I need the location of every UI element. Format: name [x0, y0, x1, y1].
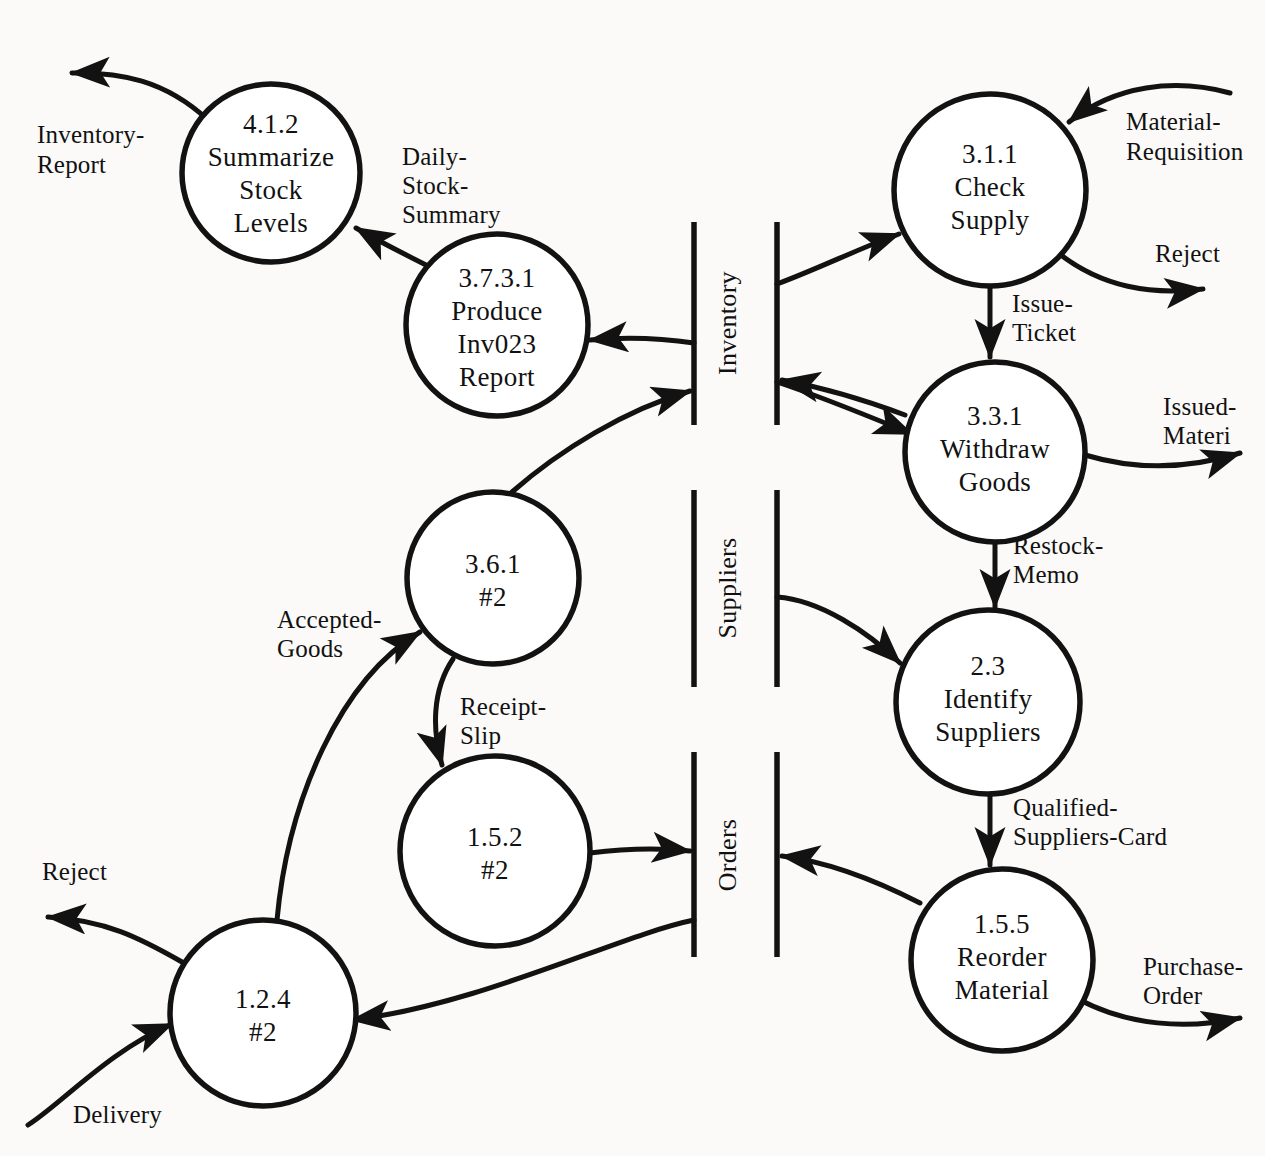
process-label-line: 3.6.1 — [465, 549, 521, 579]
flow-label-line: Daily- — [402, 143, 467, 170]
flow-label-line: Receipt- — [460, 693, 546, 720]
flow-label-line: Requisition — [1126, 138, 1244, 165]
process-label-line: Inv023 — [458, 329, 537, 359]
flow-label-daily-stock-summary: Daily- Stock- Summary — [402, 143, 501, 228]
flow-label-line: Issue- — [1012, 290, 1073, 317]
process-node-1-2-4[interactable]: 1.2.4 #2 — [170, 920, 356, 1106]
flow-label-line: Memo — [1013, 561, 1079, 588]
flow-line-withdraw-to-inventory — [782, 380, 905, 415]
flow-label-line: Material- — [1126, 108, 1221, 135]
process-label-line: Reorder — [957, 942, 1047, 972]
flow-line-issued-material — [1085, 453, 1240, 466]
data-store-label-orders: Orders — [713, 819, 742, 892]
flow-label-line: Issued- — [1163, 393, 1237, 420]
data-stores: Inventory Suppliers Orders — [694, 222, 777, 957]
flow-label-line: Report — [37, 151, 106, 178]
flow-label-line: Materi — [1163, 422, 1231, 449]
flow-line-orders-in-152 — [590, 849, 690, 853]
process-label-line: Withdraw — [940, 434, 1050, 464]
flow-line-reorder-to-orders — [782, 856, 920, 903]
flow-label-line: Qualified- — [1013, 794, 1118, 821]
process-node-3-3-1[interactable]: 3.3.1 Withdraw Goods — [905, 362, 1085, 542]
process-node-2-3[interactable]: 2.3 Identify Suppliers — [896, 610, 1080, 794]
flow-label-line: Purchase- — [1143, 953, 1243, 980]
flow-line-receipt-slip — [436, 659, 453, 765]
flow-label-material-requisition: Material- Requisition — [1126, 108, 1244, 165]
process-label-line: 3.7.3.1 — [458, 263, 535, 293]
process-label-line: Goods — [959, 467, 1032, 497]
flow-label-line: Reject — [1155, 240, 1220, 267]
flow-label-line: Order — [1143, 982, 1203, 1009]
flow-label-line: Accepted- — [277, 606, 382, 633]
process-label-line: 1.2.4 — [235, 984, 291, 1014]
process-label-line: Supply — [951, 205, 1030, 235]
flow-line-inventory-to-check — [777, 234, 899, 284]
process-label-line: Check — [955, 172, 1026, 202]
flow-label-reject-top: Reject — [1155, 240, 1220, 267]
data-store-suppliers[interactable]: Suppliers — [694, 490, 777, 687]
process-label-line: Suppliers — [935, 717, 1041, 747]
process-label-line: #2 — [481, 855, 509, 885]
flow-line-inventory-to-produce — [590, 338, 694, 343]
flow-label-restock-memo: Restock- Memo — [1013, 532, 1103, 588]
flow-line-daily-stock-summary — [356, 228, 430, 267]
process-label-line: Stock — [239, 175, 303, 205]
process-label-line: 4.1.2 — [243, 109, 299, 139]
process-label-line: Produce — [451, 296, 542, 326]
process-label-line: #2 — [249, 1017, 277, 1047]
process-label-line: Levels — [234, 208, 308, 238]
flow-label-line: Ticket — [1012, 319, 1076, 346]
data-store-label-inventory: Inventory — [713, 271, 742, 375]
process-node-1-5-2[interactable]: 1.5.2 #2 — [400, 756, 590, 946]
flow-line-suppliers-to-identify — [777, 597, 900, 663]
process-label-line: 3.1.1 — [962, 139, 1018, 169]
process-label-line: Report — [459, 362, 535, 392]
data-store-orders[interactable]: Orders — [694, 752, 777, 957]
flow-label-line: Reject — [42, 858, 107, 885]
process-nodes: 4.1.2 Summarize Stock Levels 3.7.3.1 Pro… — [170, 84, 1093, 1106]
flow-line-reject-bottom — [48, 917, 182, 962]
dfd-svg: Inventory Suppliers Orders 4.1.2 Summari… — [0, 0, 1265, 1156]
flow-label-line: Restock- — [1013, 532, 1103, 559]
flow-label-inventory-report: Inventory- Report — [37, 121, 145, 178]
process-node-4-1-2[interactable]: 4.1.2 Summarize Stock Levels — [182, 84, 360, 262]
flow-label-line: Summary — [402, 201, 501, 228]
flow-label-line: Inventory- — [37, 121, 145, 148]
process-label-line: Identify — [944, 684, 1033, 714]
flow-label-line: Goods — [277, 635, 343, 662]
process-node-3-6-1[interactable]: 3.6.1 #2 — [407, 492, 579, 664]
flow-label-issue-ticket: Issue- Ticket — [1012, 290, 1076, 346]
process-label-line: 1.5.5 — [974, 909, 1030, 939]
flow-label-reject-bottom: Reject — [42, 858, 107, 885]
process-node-1-5-5[interactable]: 1.5.5 Reorder Material — [911, 869, 1093, 1051]
flow-line-accepted-goods — [277, 632, 420, 920]
process-node-3-7-3-1[interactable]: 3.7.3.1 Produce Inv023 Report — [406, 234, 588, 416]
flow-label-qualified-suppliers-card: Qualified- Suppliers-Card — [1013, 794, 1167, 850]
process-label-line: Summarize — [208, 142, 335, 172]
data-store-inventory[interactable]: Inventory — [694, 222, 777, 425]
process-label-line: 3.3.1 — [967, 401, 1023, 431]
flow-label-line: Slip — [460, 722, 501, 749]
process-label-line: 2.3 — [971, 651, 1006, 681]
flow-label-issued-material: Issued- Materi — [1163, 393, 1237, 449]
flow-label-line: Stock- — [402, 172, 468, 199]
process-node-3-1-1[interactable]: 3.1.1 Check Supply — [894, 94, 1086, 286]
flow-label-accepted-goods: Accepted- Goods — [277, 606, 382, 662]
flow-label-delivery: Delivery — [73, 1101, 162, 1128]
flow-label-purchase-order: Purchase- Order — [1143, 953, 1243, 1009]
flow-label-receipt-slip: Receipt- Slip — [460, 693, 546, 749]
dfd-canvas: Inventory Suppliers Orders 4.1.2 Summari… — [0, 0, 1265, 1156]
process-label-line: Material — [955, 975, 1050, 1005]
flow-line-inventory-report — [72, 73, 208, 120]
data-store-label-suppliers: Suppliers — [713, 538, 742, 639]
flow-label-line: Delivery — [73, 1101, 162, 1128]
process-label-line: 1.5.2 — [467, 822, 523, 852]
flow-label-line: Suppliers-Card — [1013, 823, 1167, 850]
process-label-line: #2 — [479, 582, 507, 612]
